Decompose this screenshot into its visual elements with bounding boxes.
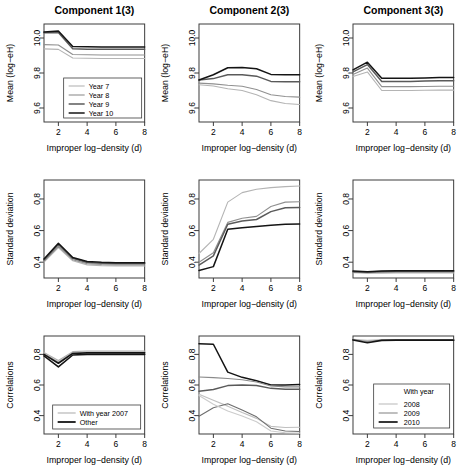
y-tick-label: 0.8 [32, 348, 42, 360]
y-tick-label: 0.4 [32, 409, 42, 421]
x-tick-label: 2 [211, 439, 216, 449]
x-axis-label: Improper log−density (d) [356, 455, 451, 465]
panel-title: Component 2(3) [209, 5, 289, 16]
legend-label: Year 9 [89, 100, 110, 109]
panel-title: Component 1(3) [54, 5, 134, 16]
x-tick-label: 6 [423, 439, 428, 449]
legend-label: 2010 [404, 418, 420, 427]
y-axis-label: Mean (log−eH) [160, 44, 170, 102]
x-tick-label: 4 [239, 127, 244, 137]
x-tick-label: 4 [239, 439, 244, 449]
y-tick-label: 9.6 [187, 102, 197, 114]
x-tick-label: 4 [394, 283, 399, 293]
series-group [199, 186, 300, 270]
y-axis-label: Standard deviation [160, 192, 170, 265]
x-tick-label: 8 [142, 439, 147, 449]
panel-svg: Component 1(3)2468Improper log−density (… [0, 0, 155, 156]
y-tick-label: 0.4 [341, 256, 351, 268]
x-tick-label: 4 [85, 283, 90, 293]
series-group [44, 243, 145, 266]
x-tick-label: 4 [85, 127, 90, 137]
panel-svg: 2468Improper log−density (d)0.40.60.8Cor… [309, 312, 464, 468]
x-axis-label: Improper log−density (d) [47, 143, 142, 153]
y-tick-label: 9.6 [32, 102, 42, 114]
x-tick-label: 2 [56, 127, 61, 137]
x-tick-label: 6 [268, 127, 273, 137]
series-line [199, 83, 300, 97]
y-tick-label: 10.0 [341, 29, 351, 46]
y-tick-label: 0.6 [341, 379, 351, 391]
y-tick-label: 0.8 [32, 193, 42, 205]
x-tick-label: 6 [423, 283, 428, 293]
series-group [199, 344, 300, 433]
y-tick-label: 9.8 [341, 67, 351, 79]
y-tick-label: 0.4 [32, 256, 42, 268]
series-group [199, 67, 300, 104]
y-axis-label: Standard deviation [314, 192, 324, 265]
y-tick-label: 0.4 [187, 256, 197, 268]
x-tick-label: 8 [142, 283, 147, 293]
panel-r3-c1: 2468Improper log−density (d)0.40.60.8Cor… [0, 312, 155, 468]
y-axis-label: Correlations [5, 361, 15, 409]
x-axis-label: Improper log−density (d) [201, 455, 296, 465]
y-tick-label: 9.8 [32, 67, 42, 79]
x-tick-label: 2 [211, 283, 216, 293]
panel-grid: Component 1(3)2468Improper log−density (… [0, 0, 464, 468]
y-tick-label: 0.6 [187, 224, 197, 236]
x-tick-label: 4 [394, 439, 399, 449]
x-tick-label: 8 [297, 283, 302, 293]
x-axis-label: Improper log−density (d) [201, 143, 296, 153]
series-line [199, 385, 300, 391]
series-line [199, 224, 300, 270]
legend-label: Year 10 [89, 109, 114, 118]
x-axis-label: Improper log−density (d) [201, 299, 296, 309]
y-axis-label: Correlations [160, 361, 170, 409]
y-axis-label: Mean (log−eH) [314, 44, 324, 102]
series-group [44, 351, 145, 367]
legend-label: Year 7 [89, 82, 110, 91]
panel-svg: 2468Improper log−density (d)0.40.60.8Cor… [0, 312, 155, 468]
series-line [44, 49, 145, 59]
panel-r2-c1: 2468Improper log−density (d)0.40.60.8Sta… [0, 156, 155, 312]
x-axis-label: Improper log−density (d) [356, 299, 451, 309]
y-tick-label: 0.8 [341, 348, 351, 360]
panel-svg: 2468Improper log−density (d)0.40.60.8Cor… [155, 312, 310, 468]
x-tick-label: 8 [452, 439, 457, 449]
series-line [199, 394, 300, 427]
x-tick-label: 2 [211, 127, 216, 137]
panel-r2-c2: 2468Improper log−density (d)0.40.60.8Sta… [155, 156, 310, 312]
x-tick-label: 2 [56, 439, 61, 449]
y-tick-label: 0.6 [341, 224, 351, 236]
x-tick-label: 8 [452, 127, 457, 137]
panel-svg: Component 3(3)2468Improper log−density (… [309, 0, 464, 156]
y-tick-label: 10.0 [32, 29, 42, 46]
y-tick-label: 10.0 [187, 29, 197, 46]
x-tick-label: 4 [85, 439, 90, 449]
x-tick-label: 8 [142, 127, 147, 137]
x-tick-label: 6 [268, 283, 273, 293]
x-tick-label: 8 [452, 283, 457, 293]
legend-header: With year [404, 387, 435, 396]
panel-svg: 2468Improper log−density (d)0.40.60.8Sta… [309, 156, 464, 312]
y-tick-label: 0.8 [187, 348, 197, 360]
y-tick-label: 0.8 [341, 193, 351, 205]
series-group [44, 31, 145, 58]
panel-svg: Component 2(3)2468Improper log−density (… [155, 0, 310, 156]
y-axis-label: Mean (log−eH) [5, 44, 15, 102]
legend-label: With year 2007 [80, 409, 128, 418]
x-tick-label: 6 [423, 127, 428, 137]
panel-r1-c1: Component 1(3)2468Improper log−density (… [0, 0, 155, 156]
y-tick-label: 0.4 [187, 409, 197, 421]
x-tick-label: 8 [297, 439, 302, 449]
x-tick-label: 6 [268, 439, 273, 449]
y-tick-label: 0.6 [32, 379, 42, 391]
plot-frame [353, 180, 454, 278]
y-axis-label: Standard deviation [5, 192, 15, 265]
panel-r2-c3: 2468Improper log−density (d)0.40.60.8Sta… [309, 156, 464, 312]
y-tick-label: 0.8 [187, 193, 197, 205]
panel-r1-c2: Component 2(3)2468Improper log−density (… [155, 0, 310, 156]
x-tick-label: 6 [114, 283, 119, 293]
series-line [199, 75, 300, 82]
y-tick-label: 0.4 [341, 409, 351, 421]
panel-svg: 2468Improper log−density (d)0.40.60.8Sta… [0, 156, 155, 312]
